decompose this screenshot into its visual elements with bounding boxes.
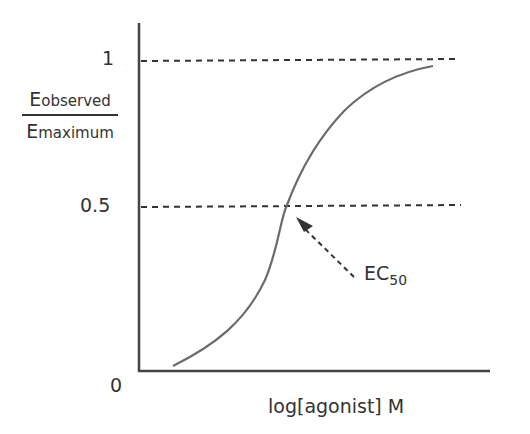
reference-line-1 — [141, 59, 455, 61]
y-label-numerator: Eobserved — [22, 90, 118, 109]
fraction-bar — [22, 114, 118, 116]
chart-figure: 1 0.5 0 Eobserved Emaximum log[agonist] … — [0, 0, 530, 434]
x-axis-label: log[agonist] M — [268, 397, 404, 416]
ec50-arrow-head — [296, 217, 313, 232]
y-axis-label: Eobserved Emaximum — [22, 90, 118, 141]
reference-line-0.5 — [141, 205, 461, 207]
y-tick-0: 0 — [110, 376, 122, 395]
ec50-arrow-line — [304, 228, 354, 277]
y-label-denominator: Emaximum — [22, 122, 118, 141]
y-tick-1: 1 — [102, 49, 114, 68]
ec50-annotation: EC50 — [364, 262, 407, 284]
y-tick-0.5: 0.5 — [80, 196, 110, 215]
chart-plot — [0, 0, 530, 434]
sigmoid-curve — [173, 66, 433, 366]
